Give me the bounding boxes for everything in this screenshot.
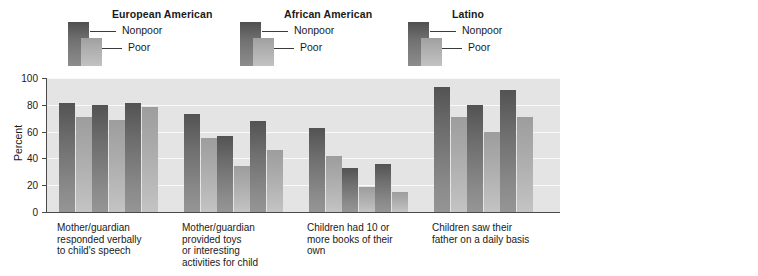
x-axis-category-label: Mother/guardian provided toys or interes… [182,222,300,268]
bar [451,117,467,212]
gridline [47,78,560,79]
bar [434,87,450,212]
bar [217,136,233,212]
bar [250,121,266,212]
chart-panel-spanking: Percent 02468101214 Mother/guardian slap… [580,0,758,276]
bar [267,150,283,212]
y-axis-tick-label: 60 [4,126,38,137]
bar [92,105,108,212]
x-axis-category-label: Children had 10 or more books of their o… [307,222,425,257]
bar [142,107,158,212]
bar [234,166,250,212]
y-axis-tick [42,158,46,159]
bar [309,128,325,212]
y-axis-tick [42,105,46,106]
bar [392,192,408,212]
y-axis-line [46,78,47,213]
bar [359,187,375,212]
bar [375,164,391,212]
y-axis-tick-label: 40 [4,153,38,164]
y-axis-tick [42,78,46,79]
bar [59,103,75,212]
y-axis-tick-label: 20 [4,180,38,191]
x-axis-line [46,212,560,213]
bar [326,156,342,212]
bar [201,138,217,212]
bar [467,105,483,212]
chart-panel-main: Percent 020406080100 Mother/guardian res… [0,0,580,276]
gridline [47,105,560,106]
y-axis-title: Percent [12,108,24,178]
bar [125,103,141,212]
bar [500,90,516,212]
x-axis-category-label: Children saw their father on a daily bas… [432,222,550,245]
bar [517,117,533,212]
y-axis-tick-label: 80 [4,99,38,110]
y-axis-tick [42,132,46,133]
bar [109,120,125,212]
y-axis-tick-label: 100 [4,73,38,84]
bar [76,117,92,212]
bar [184,114,200,212]
y-axis-tick-label: 0 [4,207,38,218]
bar [342,168,358,212]
bar [484,132,500,212]
y-axis-tick [42,185,46,186]
x-axis-category-label: Mother/guardian responded verbally to ch… [57,222,175,257]
chart-figure: European American Nonpoor Poor African A… [0,0,758,276]
